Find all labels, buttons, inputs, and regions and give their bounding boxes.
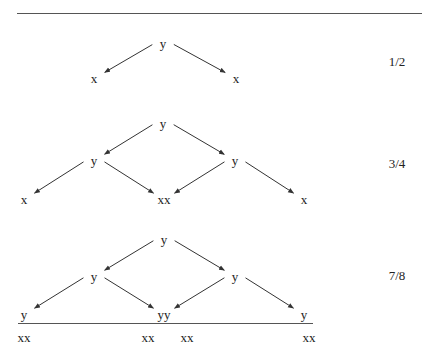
diagram-edges — [0, 0, 430, 361]
edge-arrow — [246, 278, 294, 308]
edge-arrow — [105, 241, 154, 271]
edge-arrow — [104, 162, 153, 193]
edge-arrow — [245, 162, 293, 193]
tree-node: x — [233, 72, 240, 85]
baseline-label: xx — [142, 331, 155, 344]
baseline-label: xx — [18, 331, 31, 344]
tree-node: y — [301, 308, 308, 321]
tree-node: x — [21, 193, 28, 206]
tree-node: y — [160, 117, 167, 130]
baseline-label: xx — [181, 331, 194, 344]
ratio-label: 7/8 — [389, 269, 406, 282]
edge-arrow — [174, 125, 225, 155]
edge-arrow — [105, 45, 153, 73]
edge-arrow — [34, 162, 83, 193]
tree-node: y — [232, 270, 239, 283]
edge-arrow — [175, 162, 225, 193]
tree-node: y — [161, 233, 168, 246]
tree-node: y — [91, 154, 98, 167]
baseline-rule — [18, 323, 313, 324]
tree-node: y — [21, 308, 28, 321]
edge-arrow — [174, 44, 225, 72]
tree-node: xx — [158, 193, 171, 206]
tree-node: y — [91, 270, 98, 283]
tree-node: yy — [158, 308, 171, 321]
edge-arrow — [175, 278, 225, 308]
edge-arrow — [35, 278, 84, 308]
tree-node: y — [232, 154, 239, 167]
ratio-label: 1/2 — [389, 55, 406, 68]
tree-node: y — [160, 37, 167, 50]
tree-node: x — [91, 72, 98, 85]
ratio-label: 3/4 — [389, 157, 406, 170]
edge-arrow — [105, 125, 153, 154]
tree-node: x — [301, 193, 308, 206]
baseline-label: xx — [303, 331, 316, 344]
edge-arrow — [175, 241, 225, 271]
edge-arrow — [105, 278, 154, 308]
